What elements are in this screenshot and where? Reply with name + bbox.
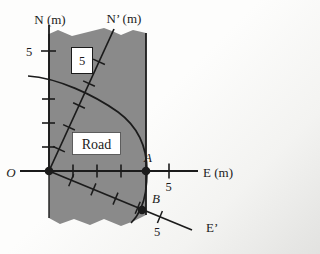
road-band <box>49 28 146 226</box>
n-prime-axis-label: N’ (m) <box>107 11 142 26</box>
figure-canvas: 5 Road N (m) N’ (m) E (m) E’ 5 5 5 O A B <box>0 0 248 254</box>
point-origin-label: O <box>6 165 16 180</box>
e-prime-tick-label: 5 <box>154 225 160 239</box>
road-axes-figure: 5 Road N (m) N’ (m) E (m) E’ 5 5 5 O A B <box>0 0 248 254</box>
n-axis-label: N (m) <box>34 12 65 27</box>
n-axis-tick-label: 5 <box>26 45 32 59</box>
point-a-dot <box>142 167 151 176</box>
road-label: Road <box>82 137 112 152</box>
point-origin-dot <box>45 167 54 176</box>
road-label-box: Road <box>73 133 121 155</box>
point-a-label: A <box>143 150 152 165</box>
point-b-dot <box>138 206 147 215</box>
point-b-label: B <box>152 191 160 206</box>
e-prime-axis-label: E’ <box>206 220 218 235</box>
e-axis-tick-label: 5 <box>165 180 171 194</box>
n-prime-tick-label-box: 5 <box>72 48 93 74</box>
e-axis-label: E (m) <box>203 165 233 180</box>
n-prime-tick-label: 5 <box>79 54 85 68</box>
